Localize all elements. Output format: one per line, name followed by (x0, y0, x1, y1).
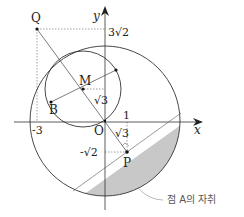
axes (14, 12, 196, 210)
point-chord-end (114, 68, 117, 71)
label-y-axis: y (92, 9, 100, 23)
tick-1: 1 (123, 109, 130, 122)
point-O (104, 120, 106, 122)
geometry-diagram: Q M B P O y x 3√2 -3 1 -√2 √3 √3 점 A의 자취 (0, 0, 244, 217)
label-P: P (123, 156, 131, 170)
point-P (125, 150, 129, 154)
tick-neg3: -3 (32, 124, 43, 137)
label-sqrt3-lower: √3 (115, 127, 129, 140)
annotation-leader (139, 189, 163, 200)
tick-3sqrt2: 3√2 (108, 26, 129, 39)
right-angle-mark (122, 143, 129, 146)
label-B: B (49, 103, 58, 117)
label-sqrt3-upper: √3 (94, 94, 108, 107)
label-M: M (79, 74, 91, 88)
line-QP (37, 29, 127, 152)
point-Q (35, 27, 38, 30)
label-O: O (94, 124, 104, 138)
annotation-locus: 점 A의 자취 (167, 194, 216, 205)
tick-neg-sqrt2: -√2 (80, 146, 98, 159)
label-x-axis: x (194, 123, 201, 137)
label-Q: Q (31, 11, 41, 25)
